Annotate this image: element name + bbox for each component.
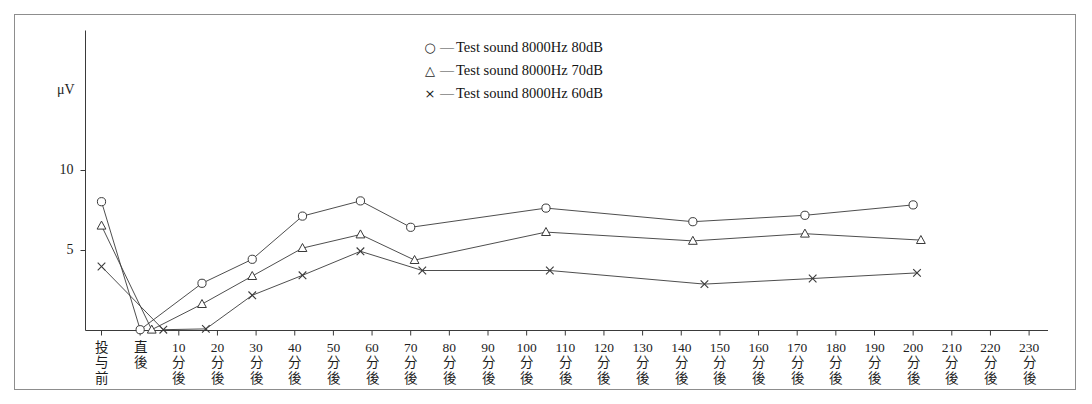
x-tick-label: 90分後 <box>475 340 501 387</box>
x-tick-label: 投与前 <box>89 340 115 387</box>
x-tick-label: 30分後 <box>243 340 269 387</box>
x-tick-label: 190分後 <box>862 340 888 387</box>
x-tick-label: 直後 <box>127 340 153 371</box>
x-tick-label: 20分後 <box>204 340 230 387</box>
x-tick-label: 120分後 <box>591 340 617 387</box>
x-tick-label: 180分後 <box>823 340 849 387</box>
legend-label: Test sound 8000Hz 60dB <box>456 85 603 102</box>
circle-data-point <box>356 197 364 205</box>
cross-marker-icon: × <box>422 87 438 100</box>
legend-item: △ — Test sound 8000Hz 70dB <box>422 59 603 82</box>
circle-data-point <box>198 279 206 287</box>
x-tick-label: 100分後 <box>514 340 540 387</box>
triangle-data-point <box>356 230 365 238</box>
triangle-data-point <box>147 325 156 333</box>
legend-label: Test sound 8000Hz 70dB <box>456 62 603 79</box>
triangle-data-point <box>198 300 207 308</box>
x-tick-label: 140分後 <box>668 340 694 387</box>
cross-data-point <box>248 292 256 300</box>
cross-data-point <box>357 248 365 256</box>
circle-data-point <box>542 204 550 212</box>
cross-data-point <box>299 272 307 280</box>
series-circle <box>97 197 917 334</box>
circle-data-point <box>909 201 917 209</box>
x-tick-label: 50分後 <box>320 340 346 387</box>
triangle-marker-icon: △ <box>422 64 438 77</box>
legend-item: ○ — Test sound 8000Hz 80dB <box>422 36 603 59</box>
x-tick-label: 150分後 <box>707 340 733 387</box>
triangle-data-point <box>801 229 810 237</box>
legend-line-icon: — <box>438 86 456 102</box>
circle-data-point <box>801 211 809 219</box>
circle-data-point <box>97 198 105 206</box>
y-tick-label: 5 <box>48 242 74 258</box>
legend-line-icon: — <box>438 40 456 56</box>
triangle-data-point <box>248 272 257 280</box>
x-tick-label: 160分後 <box>746 340 772 387</box>
x-tick-label: 60分後 <box>359 340 385 387</box>
series-triangle <box>97 221 925 333</box>
legend-label: Test sound 8000Hz 80dB <box>456 39 603 56</box>
x-tick-label: 40分後 <box>282 340 308 387</box>
x-tick-label: 170分後 <box>784 340 810 387</box>
series-cross <box>98 248 921 334</box>
x-tick-label: 10分後 <box>166 340 192 387</box>
circle-marker-icon: ○ <box>422 41 438 54</box>
x-tick-label: 220分後 <box>977 340 1003 387</box>
circle-data-point <box>689 218 697 226</box>
x-tick-label: 80分後 <box>436 340 462 387</box>
triangle-data-point <box>542 228 551 236</box>
triangle-data-point <box>97 221 106 229</box>
x-tick-label: 110分後 <box>552 340 578 387</box>
x-tick-label: 70分後 <box>398 340 424 387</box>
circle-data-point <box>298 212 306 220</box>
y-tick-label: 10 <box>48 162 74 178</box>
legend-line-icon: — <box>438 63 456 79</box>
x-tick-label: 200分後 <box>900 340 926 387</box>
circle-data-point <box>248 255 256 263</box>
circle-data-point <box>136 326 144 334</box>
x-tick-label: 130分後 <box>630 340 656 387</box>
circle-data-point <box>407 223 415 231</box>
x-tick-label: 210分後 <box>939 340 965 387</box>
x-tick-label: 230分後 <box>1016 340 1042 387</box>
legend-item: × — Test sound 8000Hz 60dB <box>422 82 603 105</box>
chart-page: μV ○ — Test sound 8000Hz 80dB △ — Test s… <box>0 0 1092 404</box>
cross-data-point <box>98 263 106 271</box>
chart-legend: ○ — Test sound 8000Hz 80dB △ — Test soun… <box>422 36 603 105</box>
y-axis-label: μV <box>57 82 75 98</box>
